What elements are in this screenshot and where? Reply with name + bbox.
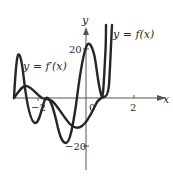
y-tick-label-neg20: −20 bbox=[65, 141, 86, 152]
chart: y x 20 −20 2 −2 0 y = f′(x) y = f(x) bbox=[0, 0, 173, 180]
f-curve-label: y = f(x) bbox=[112, 28, 154, 41]
fprime-curve-label: y = f′(x) bbox=[22, 60, 67, 73]
x-axis-label: x bbox=[163, 93, 170, 106]
y-axis-label: y bbox=[81, 14, 89, 27]
x-tick-label-2: 2 bbox=[130, 102, 136, 113]
x-tick-label-neg2: −2 bbox=[31, 102, 46, 113]
y-axis-arrow-icon bbox=[83, 27, 89, 35]
fprime-curve bbox=[14, 25, 106, 143]
y-tick-label-20: 20 bbox=[69, 44, 82, 55]
chart-canvas: y x 20 −20 2 −2 0 y = f′(x) y = f(x) bbox=[0, 0, 173, 180]
x-tick-label-0: 0 bbox=[89, 102, 95, 113]
